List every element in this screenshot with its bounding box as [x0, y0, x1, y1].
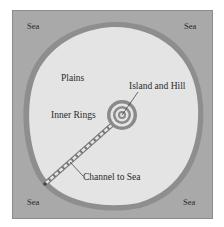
atlantis-map: Sea Sea Sea Sea Plains Island and Hill I…: [0, 0, 224, 227]
island-and-hill-label: Island and Hill: [129, 81, 186, 91]
sea-label-bottom-right: Sea: [183, 197, 196, 207]
plains-label: Plains: [61, 73, 85, 83]
inner-rings-label: Inner Rings: [51, 110, 96, 120]
sea-label-top-left: Sea: [27, 21, 40, 31]
sea-label-bottom-left: Sea: [27, 197, 40, 207]
sea-label-top-right: Sea: [184, 21, 197, 31]
channel-to-sea-label: Channel to Sea: [83, 172, 141, 182]
